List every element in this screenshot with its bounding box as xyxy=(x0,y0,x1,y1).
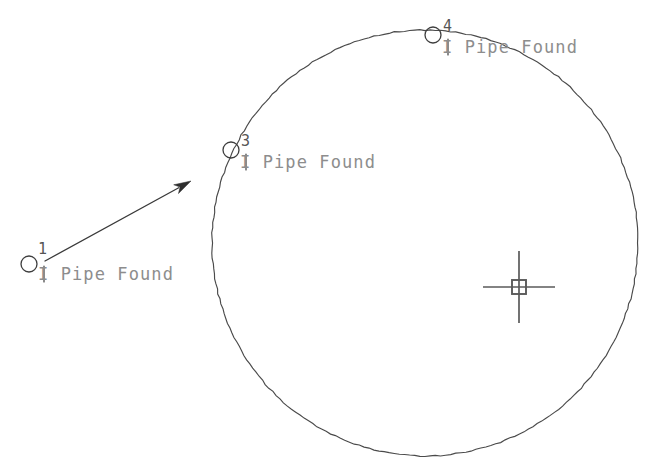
direction-arrow xyxy=(45,181,191,261)
pipe-found-circle-icon[interactable] xyxy=(21,256,37,272)
center-monument-marker[interactable] xyxy=(483,251,555,323)
plat-drawing-svg: 1I Pipe Found3I Pipe Found4I Pipe Found xyxy=(0,0,646,469)
arrow-head-icon xyxy=(174,181,191,194)
pipe-found-label: I Pipe Found xyxy=(240,152,376,172)
point-marker-3[interactable]: 3I Pipe Found xyxy=(223,132,376,172)
point-marker-1[interactable]: 1I Pipe Found xyxy=(21,240,174,284)
pipe-found-label: I Pipe Found xyxy=(442,37,578,57)
point-marker-4[interactable]: 4I Pipe Found xyxy=(425,17,578,57)
pipe-found-circle-icon[interactable] xyxy=(425,27,441,43)
point-index-label: 3 xyxy=(241,132,250,150)
boundary-arc xyxy=(212,30,638,457)
drawing-canvas: 1I Pipe Found3I Pipe Found4I Pipe Found xyxy=(0,0,646,469)
point-index-label: 1 xyxy=(38,240,47,258)
point-index-label: 4 xyxy=(443,17,452,35)
arrow-shaft xyxy=(45,188,179,261)
pipe-found-label: I Pipe Found xyxy=(38,264,174,284)
